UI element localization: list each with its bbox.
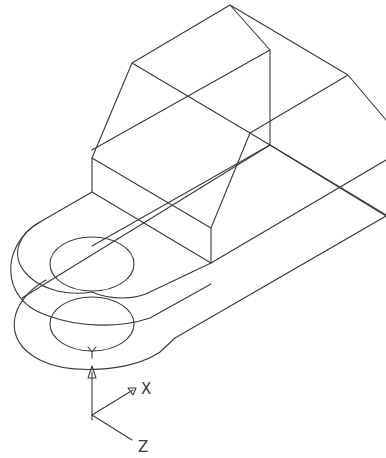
- outer-arc-upper: [11, 222, 211, 325]
- base-right-edges: [175, 145, 386, 338]
- part-wireframe: [11, 5, 386, 369]
- x-axis-label: X: [141, 380, 151, 398]
- z-axis-label: Z: [138, 438, 148, 456]
- y-letter-mark: [88, 347, 96, 358]
- upper-hole: [50, 237, 134, 291]
- roof-edges: [92, 5, 386, 158]
- z-axis-line: [92, 415, 132, 440]
- base-upper-arc-continuation: [92, 263, 211, 298]
- center-diagonal: [22, 145, 270, 298]
- isometric-drawing: X Z: [0, 0, 386, 458]
- x-axis-line: [92, 390, 133, 415]
- x-axis-arrow: [128, 388, 136, 395]
- cad-viewport[interactable]: X Z: [0, 0, 386, 458]
- base-top: [18, 160, 386, 293]
- ucs-icon: X Z: [88, 347, 151, 456]
